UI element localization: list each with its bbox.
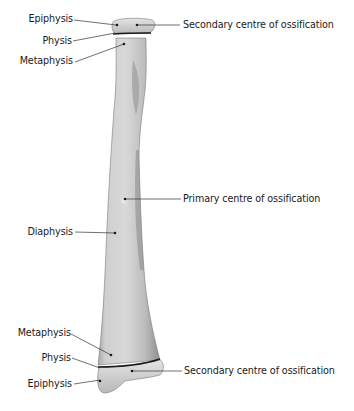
label-metaphysis-bottom: Metaphysis xyxy=(0,327,71,339)
label-physis-top: Physis xyxy=(0,35,72,47)
bone-shaft xyxy=(98,38,160,365)
top-epiphysis xyxy=(112,18,155,34)
bone-diagram: Epiphysis Physis Metaphysis Diaphysis Me… xyxy=(0,0,354,411)
top-physis-line xyxy=(113,33,151,34)
label-epiphysis-bottom: Epiphysis xyxy=(0,378,72,390)
label-primary-centre: Primary centre of ossification xyxy=(183,193,320,205)
label-secondary-centre-top: Secondary centre of ossification xyxy=(183,19,334,31)
label-secondary-centre-bottom: Secondary centre of ossification xyxy=(184,365,335,377)
label-physis-bottom: Physis xyxy=(0,352,71,364)
label-metaphysis-top: Metaphysis xyxy=(0,55,73,67)
label-diaphysis: Diaphysis xyxy=(0,226,73,238)
label-epiphysis-top: Epiphysis xyxy=(0,13,73,25)
